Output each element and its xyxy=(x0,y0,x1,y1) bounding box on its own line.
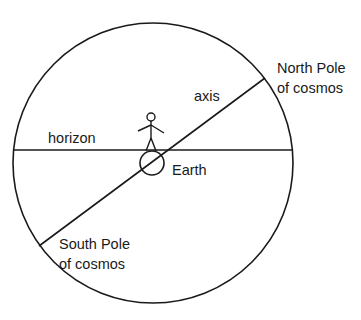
earth-label: Earth xyxy=(172,160,207,180)
observer-stick-figure xyxy=(138,113,164,151)
north-pole-label-line2: of cosmos xyxy=(277,78,346,98)
axis-label: axis xyxy=(194,86,220,106)
celestial-sphere xyxy=(13,23,293,303)
south-pole-label: South Pole of cosmos xyxy=(59,234,130,274)
south-pole-label-line2: of cosmos xyxy=(59,254,130,274)
earth-circle xyxy=(140,151,164,175)
south-pole-label-line1: South Pole xyxy=(59,234,130,254)
axis-line xyxy=(39,78,265,246)
north-pole-label-line1: North Pole xyxy=(277,58,346,78)
horizon-label: horizon xyxy=(48,128,96,148)
north-pole-label: North Pole of cosmos xyxy=(277,58,346,98)
